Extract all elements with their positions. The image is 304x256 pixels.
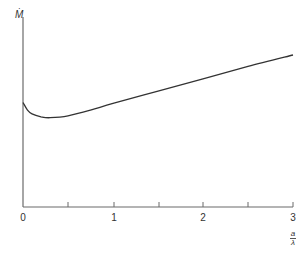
x-axis-label-denominator: λ: [291, 238, 295, 247]
x-tick-label-0: 0: [20, 212, 26, 223]
x-axis: [23, 202, 293, 207]
y-axis-label: · M: [15, 9, 23, 20]
x-tick-label-1: 1: [111, 212, 117, 223]
x-tick-label-2: 2: [200, 212, 206, 223]
x-axis-label-numerator: a: [291, 229, 295, 238]
x-tick-label-3: 3: [290, 212, 296, 223]
y-axis-label-dot: ·: [18, 4, 21, 13]
line-chart: [0, 0, 304, 256]
data-curve: [23, 55, 293, 118]
x-axis-label: a λ: [290, 230, 296, 247]
